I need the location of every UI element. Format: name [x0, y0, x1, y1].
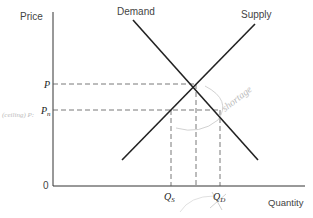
- demand-label: Demand: [117, 6, 155, 17]
- equilibrium-price-label: P: [43, 79, 50, 90]
- ceiling-price-label: Pn: [40, 105, 51, 118]
- supply-label: Supply: [241, 9, 272, 20]
- qs-label: QS: [164, 191, 175, 204]
- qd-label: QD: [213, 191, 225, 204]
- price-axis-label: Price: [20, 11, 43, 22]
- shortage-annotation: shortage: [219, 83, 254, 114]
- left-annotation: (ceiling) P:: [2, 111, 34, 119]
- quantity-axis-label: Quantity: [268, 197, 304, 208]
- shortage-bracket: [176, 86, 223, 130]
- supply-demand-diagram: Price Quantity 0 Demand Supply P Pn QS Q…: [0, 0, 313, 218]
- origin-label: 0: [43, 180, 49, 191]
- scribble-mark: [180, 196, 214, 212]
